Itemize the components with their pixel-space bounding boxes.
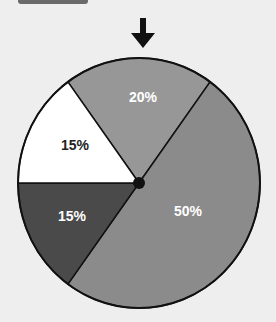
slice-label: 15% [61,137,90,153]
center-hub [133,177,145,189]
slice-label: 15% [58,208,87,224]
slice-label: 20% [129,89,158,105]
pie-chart: 20%50%15%15% [0,0,276,322]
pointer-arrow-icon [131,18,155,48]
slice-label: 50% [174,203,203,219]
